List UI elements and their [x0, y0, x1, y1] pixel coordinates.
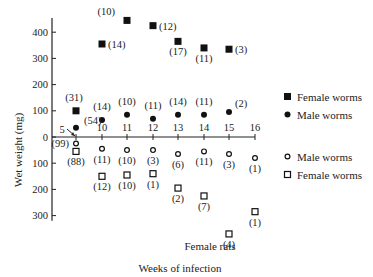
sample-size-label: (11) — [195, 53, 213, 65]
data-point — [125, 148, 130, 153]
data-point — [99, 40, 106, 47]
sample-size-label: (2) — [172, 193, 185, 205]
sample-size-label: (12) — [159, 21, 177, 33]
y-tick-label: 100 — [32, 105, 48, 116]
data-point — [201, 193, 207, 199]
sample-size-label: (14) — [169, 96, 187, 108]
legend-open-circle-icon — [285, 154, 290, 159]
data-point — [100, 146, 105, 151]
data-point — [226, 231, 232, 237]
legend-label: Female worms — [297, 91, 362, 103]
legend-label: Male worms — [297, 151, 352, 163]
data-point — [124, 172, 130, 178]
sample-size-label: (88) — [67, 156, 85, 168]
sample-size-label: (7) — [198, 201, 211, 213]
sample-size-label: (14) — [108, 39, 126, 51]
sample-size-label: (1) — [249, 217, 262, 229]
data-point — [150, 171, 156, 177]
sample-size-label: (3) — [235, 44, 248, 56]
wet-weight-chart: 0100200300400100200300101112131415165 (3… — [0, 0, 373, 277]
y-tick-label: 300 — [32, 210, 48, 221]
legend-filled-circle-icon — [285, 112, 291, 118]
legend-label: Female worms — [297, 169, 362, 181]
sample-size-label: (6) — [172, 159, 185, 171]
x-tick-label: 13 — [173, 122, 184, 133]
data-point — [252, 209, 258, 215]
y-tick-label: 0 — [43, 132, 48, 143]
y-tick-label: 400 — [32, 27, 48, 38]
sample-size-label: (10) — [118, 180, 136, 192]
data-point — [150, 116, 156, 122]
sample-size-label: (11) — [93, 154, 111, 166]
y-tick-label: 200 — [32, 79, 48, 90]
sample-size-label: (10) — [118, 96, 136, 108]
y-tick-label: 200 — [32, 184, 48, 195]
sample-size-label: (99) — [52, 138, 70, 150]
x-tick-label: 12 — [148, 122, 159, 133]
y-axis-label: Wet weight (mg) — [12, 113, 25, 188]
sample-size-label: (3) — [147, 155, 160, 167]
data-point — [226, 109, 232, 115]
data-point — [124, 17, 131, 24]
sample-size-label: (2) — [235, 98, 248, 110]
data-point — [175, 112, 181, 118]
legend-open-square-icon — [285, 172, 291, 178]
data-point — [202, 149, 207, 154]
sample-size-label: (11) — [195, 96, 213, 108]
data-point — [99, 173, 105, 179]
sample-size-label: (1) — [249, 163, 262, 175]
y-tick-label: 300 — [32, 53, 48, 64]
data-point — [175, 185, 181, 191]
data-point — [151, 148, 156, 153]
x-tick-label: 14 — [199, 122, 210, 133]
sample-size-label: (10) — [98, 6, 116, 18]
data-point — [124, 112, 130, 118]
x-tick-label: 16 — [250, 122, 261, 133]
sample-size-label: (31) — [65, 92, 83, 104]
sample-size-label: (10) — [118, 155, 136, 167]
data-point — [227, 152, 232, 157]
data-point — [73, 148, 79, 154]
data-point — [226, 46, 233, 53]
female-rats-label: Female rats — [184, 240, 235, 252]
x-tick-label: 11 — [122, 122, 132, 133]
data-point — [253, 156, 258, 161]
legend-filled-square-icon — [284, 93, 291, 100]
sample-size-label: (1) — [147, 179, 160, 191]
x-tick-label: 15 — [224, 122, 235, 133]
data-point — [73, 107, 80, 114]
x-axis-label: Weeks of infection — [139, 262, 222, 274]
data-point — [201, 44, 208, 51]
sample-size-label: (11) — [144, 100, 162, 112]
data-point — [74, 141, 79, 146]
sample-size-label: (54) — [84, 115, 102, 127]
sample-size-label: (14) — [93, 101, 111, 113]
week-5-annotation: 5 — [59, 124, 64, 135]
y-tick-label: 100 — [32, 158, 48, 169]
sample-size-label: (12) — [93, 181, 111, 193]
sample-size-label: (11) — [195, 156, 213, 168]
data-point — [73, 125, 79, 131]
legend: Female wormsMale wormsMale wormsFemale w… — [284, 91, 362, 181]
legend-label: Male worms — [297, 109, 352, 121]
data-point — [150, 22, 157, 29]
data-point — [176, 152, 181, 157]
sample-size-label: (17) — [169, 46, 187, 58]
data-point — [201, 112, 207, 118]
data-point — [175, 38, 182, 45]
sample-size-label: (3) — [223, 159, 236, 171]
